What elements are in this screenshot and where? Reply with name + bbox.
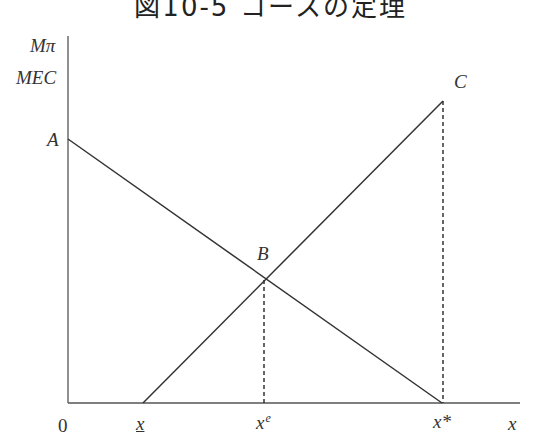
point-a-label: A bbox=[47, 130, 59, 149]
marginal-profit-line bbox=[68, 139, 442, 403]
mec-line bbox=[143, 101, 443, 403]
x-lower-bound-label: x bbox=[136, 414, 144, 433]
xe-superscript: e bbox=[265, 411, 270, 425]
x-equilibrium-label: xe bbox=[256, 412, 271, 432]
y-axis-label-mpi: Mπ bbox=[30, 36, 55, 55]
x-axis-label: x bbox=[508, 414, 516, 433]
origin-label: 0 bbox=[58, 416, 68, 435]
xe-base: x bbox=[256, 412, 264, 433]
x-star-label: x* bbox=[433, 412, 451, 431]
point-c-label: C bbox=[454, 72, 467, 91]
y-axis-label-mec: MEC bbox=[16, 68, 56, 87]
chart-plot bbox=[0, 0, 541, 448]
point-b-label: B bbox=[257, 244, 269, 263]
